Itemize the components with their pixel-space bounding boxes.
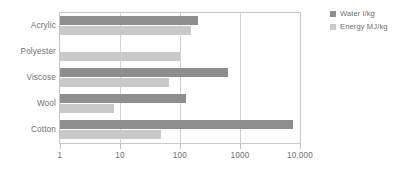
x-tick-mark (60, 144, 61, 149)
x-tick-label: 100 (173, 151, 187, 160)
x-axis: 110100100010,000 (59, 144, 301, 172)
bar-cotton-energy (60, 130, 161, 139)
legend-item-energy[interactable]: Energy MJ/kg (330, 21, 410, 32)
legend-label: Water l/kg (340, 9, 375, 18)
x-tick-label: 10,000 (287, 151, 313, 160)
x-tick-label: 1 (58, 151, 63, 160)
x-tick-label: 10 (115, 151, 125, 160)
category-label-wool: Wool (0, 99, 56, 108)
bar-acrylic-water (60, 16, 198, 25)
bar-viscose-water (60, 68, 228, 77)
plot-area (59, 12, 301, 144)
bar-acrylic-energy (60, 26, 191, 35)
x-tick-label: 1000 (230, 151, 249, 160)
category-label-polyester: Polyester (0, 47, 56, 56)
legend-item-water[interactable]: Water l/kg (330, 8, 410, 19)
x-tick-mark (120, 144, 121, 149)
legend-label: Energy MJ/kg (340, 22, 388, 31)
x-tick-mark (300, 144, 301, 149)
x-tick-mark (240, 144, 241, 149)
category-axis: AcrylicPolyesterViscoseWoolCotton (0, 12, 56, 144)
bar-viscose-energy (60, 78, 169, 87)
bar-wool-water (60, 94, 186, 103)
bar-polyester-energy (60, 52, 180, 61)
legend-swatch-icon (330, 11, 336, 17)
category-label-acrylic: Acrylic (0, 21, 56, 30)
category-label-cotton: Cotton (0, 125, 56, 134)
legend-swatch-icon (330, 24, 336, 30)
bar-wool-energy (60, 104, 114, 113)
x-tick-mark (180, 144, 181, 149)
category-label-viscose: Viscose (0, 73, 56, 82)
chart-legend: Water l/kgEnergy MJ/kg (330, 8, 410, 34)
chart-container: AcrylicPolyesterViscoseWoolCotton 110100… (0, 0, 411, 174)
bar-cotton-water (60, 120, 293, 129)
